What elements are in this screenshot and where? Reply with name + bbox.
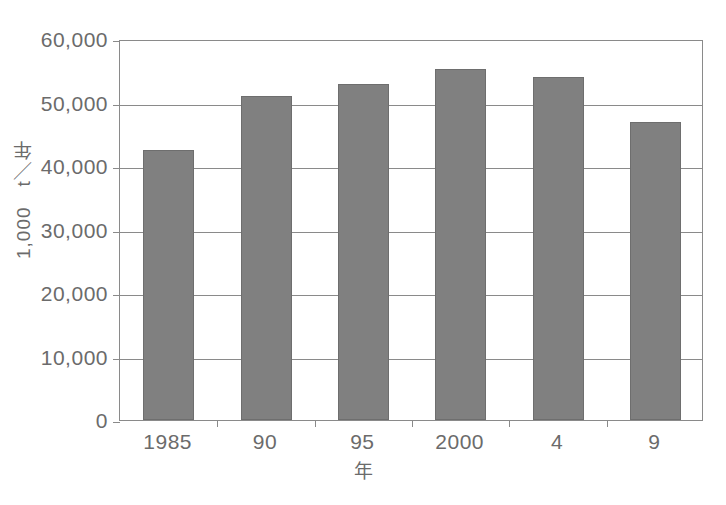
bar [630,122,681,420]
x-axis-tick [315,420,316,427]
x-axis-tick [217,420,218,427]
y-axis-tick-label: 10,000 [0,347,108,368]
y-axis-tick-label: 40,000 [0,156,108,177]
y-axis-tick-label: 20,000 [0,283,108,304]
x-axis-tick-label: 1985 [119,430,216,454]
y-axis-tick-label: 0 [0,410,108,431]
bar [533,77,584,420]
x-axis-tick [509,420,510,427]
x-axis-tick-label: 95 [314,430,411,454]
y-axis-tick [113,295,120,296]
x-axis-tick-label: 4 [508,430,605,454]
y-axis-tick-label: 30,000 [0,220,108,241]
x-axis-tick [607,420,608,427]
x-axis-tick-labels: 19859095200049 [119,430,703,460]
bar [241,96,292,420]
y-axis-tick-label: 50,000 [0,93,108,114]
x-axis-tick [412,420,413,427]
chart-page: 1,000 t／年 010,00020,00030,00040,00050,00… [0,0,726,505]
y-axis-tick-labels: 010,00020,00030,00040,00050,00060,000 [0,0,110,505]
bar-series [120,41,702,420]
x-axis-title: 年 [0,462,726,482]
bar [143,150,194,420]
y-axis-tick [113,41,120,42]
y-axis-tick [113,422,120,423]
plot-area [119,40,703,421]
bar [338,84,389,420]
y-axis-tick [113,359,120,360]
y-axis-tick [113,232,120,233]
x-axis-tick-label: 2000 [411,430,508,454]
x-axis-tick-label: 90 [216,430,313,454]
y-axis-tick-label: 60,000 [0,29,108,50]
bar [435,69,486,420]
y-axis-tick [113,168,120,169]
x-axis-tick-label: 9 [606,430,703,454]
y-axis-tick [113,105,120,106]
